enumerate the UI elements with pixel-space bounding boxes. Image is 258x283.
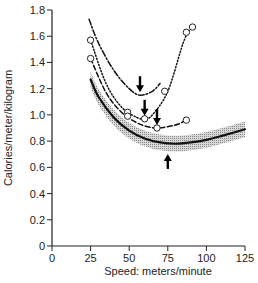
x-tick-label: 75 xyxy=(162,252,174,264)
shaded-band xyxy=(91,72,245,152)
data-point-circle xyxy=(124,113,130,119)
arrow-down-head-icon xyxy=(136,85,144,92)
arrow-up-head-icon xyxy=(164,154,172,161)
data-point-circle xyxy=(162,88,168,94)
shaded-confidence-band xyxy=(91,72,245,152)
x-tick-label: 125 xyxy=(236,252,254,264)
arrow-down-head-icon xyxy=(153,118,161,125)
chart-canvas: 00.20.40.60.81.01.21.41.61.8025507510012… xyxy=(0,0,258,283)
x-tick-label: 25 xyxy=(84,252,96,264)
x-tick-label: 100 xyxy=(197,252,215,264)
y-tick-label: 0.4 xyxy=(30,188,45,200)
data-point-circle xyxy=(141,116,147,122)
x-tick-label: 50 xyxy=(123,252,135,264)
y-tick-label: 0.6 xyxy=(30,161,45,173)
x-tick-label: 0 xyxy=(49,252,55,264)
curve-dashed xyxy=(91,59,188,128)
y-tick-label: 1.6 xyxy=(30,30,45,42)
curve-dashdot xyxy=(89,19,160,95)
arrow-down-head-icon xyxy=(141,109,149,116)
y-axis-title: Calories/meter/kilogram xyxy=(2,70,14,186)
curves xyxy=(89,19,245,144)
y-tick-label: 1.8 xyxy=(30,4,45,16)
data-point-circle xyxy=(189,24,195,30)
y-tick-label: 0.8 xyxy=(30,135,45,147)
y-tick-label: 0 xyxy=(39,240,45,252)
data-point-circle xyxy=(87,55,93,61)
y-tick-label: 1.0 xyxy=(30,109,45,121)
y-tick-label: 1.4 xyxy=(30,56,45,68)
y-tick-label: 0.2 xyxy=(30,214,45,226)
data-point-circle xyxy=(183,29,189,35)
x-axis-title: Speed: meters/minute xyxy=(104,265,212,277)
data-point-circle xyxy=(154,125,160,131)
data-point-circle xyxy=(183,117,189,123)
y-tick-label: 1.2 xyxy=(30,83,45,95)
data-point-circle xyxy=(87,37,93,43)
